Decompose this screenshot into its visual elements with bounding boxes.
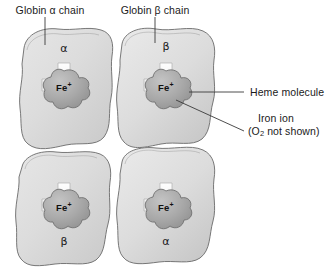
subunit-shapes	[16, 28, 215, 265]
iron-symbol-top-left: Fe	[56, 82, 68, 93]
o2-paren-open: (O	[248, 125, 260, 137]
o2-not-shown-tail: not shown)	[264, 125, 319, 137]
iron-label-top-right: Fe+	[151, 81, 181, 93]
chain-letter-top-right: β	[156, 40, 176, 53]
chain-letter-bottom-left: β	[54, 235, 74, 248]
iron-symbol-top-right: Fe	[158, 82, 170, 93]
hemoglobin-diagram: Globin α chain Globin β chain Heme molec…	[0, 0, 329, 276]
iron-symbol-bottom-left: Fe	[56, 202, 68, 213]
iron-label-top-left: Fe+	[49, 81, 79, 93]
chain-letter-bottom-right: α	[156, 235, 176, 248]
iron-symbol-bottom-right: Fe	[158, 202, 170, 213]
label-o2-not-shown: (O2 not shown)	[248, 125, 320, 138]
iron-label-bottom-right: Fe+	[151, 201, 181, 213]
iron-charge-top-right: +	[170, 81, 174, 88]
label-heme-molecule: Heme molecule	[250, 86, 324, 98]
chain-letter-top-left: α	[54, 42, 74, 55]
label-iron-ion: Iron ion	[258, 112, 294, 124]
iron-charge-top-left: +	[68, 81, 72, 88]
iron-charge-bottom-left: +	[68, 201, 72, 208]
label-globin-alpha-chain: Globin α chain	[0, 4, 100, 16]
label-globin-beta-chain: Globin β chain	[105, 4, 205, 16]
iron-charge-bottom-right: +	[170, 201, 174, 208]
iron-label-bottom-left: Fe+	[49, 201, 79, 213]
